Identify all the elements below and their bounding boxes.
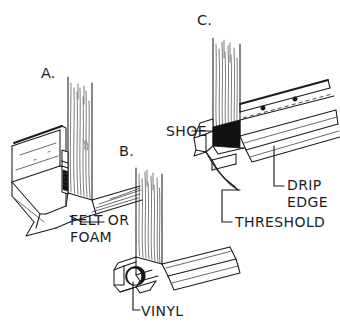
figure-a-sweep-housing xyxy=(62,150,68,194)
figure-c-threshold-body xyxy=(240,110,340,162)
drip-edge-label-line1: DRIP xyxy=(287,177,322,193)
figure-b-door-slab xyxy=(136,168,162,264)
threshold-label: THRESHOLD xyxy=(234,214,325,230)
diagram-canvas: A. FELT OR FOAM xyxy=(0,0,340,326)
screw-head-2 xyxy=(293,97,297,101)
felt-or-foam-label-line2: FOAM xyxy=(70,229,112,245)
shoe-label: SHOE xyxy=(166,123,207,139)
figure-c-label: C. xyxy=(197,12,212,28)
figure-a-wood-grain xyxy=(70,83,90,198)
figure-a-label: A. xyxy=(41,65,56,81)
screw-head-1 xyxy=(261,106,265,110)
weatherstripping-detail-diagram: A. FELT OR FOAM xyxy=(0,0,340,326)
vinyl-callout: VINYL xyxy=(133,282,184,319)
felt-or-foam-label-line1: FELT OR xyxy=(70,212,129,228)
figure-c-drawing xyxy=(194,38,340,190)
figure-b-wood-grain xyxy=(139,170,160,263)
drip-edge-callout: DRIP EDGE xyxy=(274,146,328,210)
felt-or-foam-callout: FELT OR FOAM xyxy=(70,212,129,245)
shoe-callout: SHOE xyxy=(166,123,213,139)
drip-edge-label-line2: EDGE xyxy=(287,194,328,210)
figure-b-label: B. xyxy=(119,143,134,159)
figure-a-threshold-slope xyxy=(12,166,70,236)
vinyl-label: VINYL xyxy=(141,303,184,319)
figure-a-door-slab xyxy=(68,77,92,200)
figure-a-jamb-panels xyxy=(12,126,66,182)
figure-b-drawing xyxy=(114,168,240,293)
